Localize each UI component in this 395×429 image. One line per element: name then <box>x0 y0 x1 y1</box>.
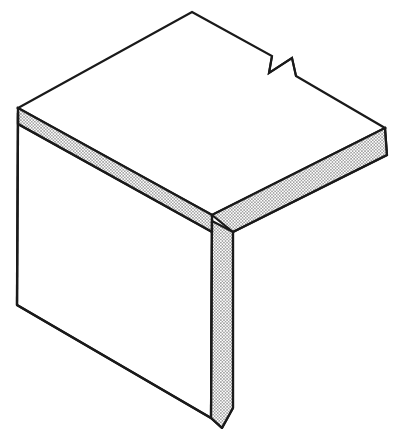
isometric-panel-corner-drawing: Isometric Panel Corner Detail Isometric … <box>0 0 395 429</box>
side-panel-left-edge <box>17 113 18 305</box>
side-panel-inner-edge <box>211 221 212 418</box>
technical-drawing-canvas: Isometric Panel Corner Detail Isometric … <box>0 0 395 429</box>
edge-band-vertical <box>211 221 233 428</box>
